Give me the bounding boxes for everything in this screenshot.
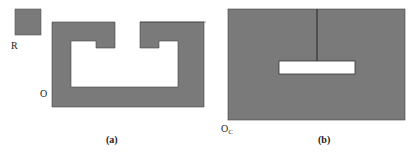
- panel-a: R O (a): [11, 9, 206, 146]
- panel-b: OC (b): [221, 9, 405, 146]
- caption-a: (a): [106, 134, 118, 146]
- caption-b: (b): [318, 134, 330, 146]
- figure: R O (a) OC (b): [0, 0, 418, 154]
- robot-square: [15, 9, 41, 35]
- robot-label: R: [11, 40, 18, 51]
- obstacle-shape: [52, 22, 204, 107]
- cspace-label: OC: [221, 123, 233, 136]
- obstacle-label: O: [40, 88, 47, 99]
- free-slot: [279, 61, 355, 74]
